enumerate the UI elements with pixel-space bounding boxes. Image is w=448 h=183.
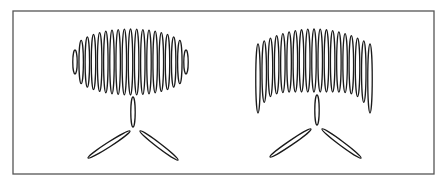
- coil-loop: [178, 40, 182, 83]
- coil-loop: [262, 41, 266, 103]
- left-figure-legs: [87, 129, 180, 162]
- right-figure-legs: [269, 127, 363, 160]
- coil-loop: [349, 36, 353, 94]
- coil-loop: [85, 37, 89, 87]
- right-figure-arched-coil: [256, 29, 372, 113]
- coil-loop: [299, 30, 303, 92]
- figure-canvas: [0, 0, 448, 183]
- right-figure-stem: [315, 95, 319, 125]
- coil-loop: [318, 29, 322, 92]
- leg-segment: [321, 127, 363, 160]
- coil-loop: [337, 32, 341, 92]
- coil-loop: [128, 29, 132, 95]
- coil-loop: [281, 34, 285, 93]
- coil-loop: [274, 36, 278, 94]
- coil-loop: [330, 31, 334, 92]
- coil-loop: [79, 40, 83, 83]
- coil-loop: [368, 44, 372, 113]
- coil-loop: [324, 30, 328, 92]
- coil-loop: [147, 30, 151, 94]
- coil-loop: [122, 29, 126, 95]
- coil-loop: [134, 29, 138, 95]
- leg-segment: [139, 129, 180, 162]
- coil-loop: [97, 33, 101, 92]
- coil-loop: [343, 34, 347, 93]
- left-figure-oval-coil: [73, 29, 188, 95]
- coil-loop: [362, 41, 366, 103]
- coil-loop: [110, 30, 114, 94]
- coil-loop: [159, 33, 163, 92]
- coil-loop: [306, 29, 310, 92]
- coil-loop: [165, 34, 169, 89]
- left-figure: [73, 29, 188, 162]
- coil-loop: [293, 31, 297, 92]
- stem-segment: [315, 95, 319, 125]
- coil-loop: [104, 31, 108, 93]
- leg-segment: [87, 129, 131, 160]
- leg-segment: [269, 127, 313, 159]
- right-figure: [256, 29, 372, 160]
- coil-loop: [287, 32, 291, 92]
- coil-loop: [171, 37, 175, 87]
- coil-loop: [184, 50, 188, 74]
- coil-loop: [116, 30, 120, 95]
- coil-loop: [91, 34, 95, 89]
- coil-loop: [355, 38, 359, 97]
- coil-loop: [73, 50, 77, 74]
- left-figure-stem: [131, 97, 135, 127]
- stem-segment: [131, 97, 135, 127]
- coil-loop: [312, 29, 316, 92]
- figure-frame: [13, 11, 434, 174]
- coil-loop: [153, 31, 157, 93]
- coil-loop: [268, 38, 272, 97]
- coil-loop: [256, 44, 260, 113]
- coil-loop: [141, 30, 145, 95]
